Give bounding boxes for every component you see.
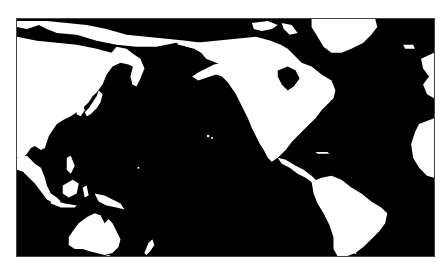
land-iceland <box>403 45 415 49</box>
world-map: Pacific-centered world map <box>16 18 435 257</box>
land-hawaii-2 <box>211 137 213 139</box>
land-falklands <box>354 252 356 254</box>
land-hawaii <box>207 135 210 138</box>
land-pacific-island <box>137 167 139 169</box>
map-svg <box>17 19 434 256</box>
land-caribbean <box>316 152 330 154</box>
